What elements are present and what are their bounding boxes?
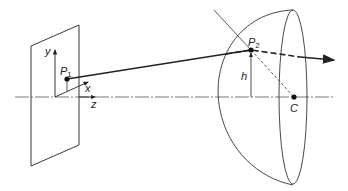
diagram-canvas: y x z P1 P2 h C (0, 0, 348, 191)
label-p2: P2 (248, 36, 260, 50)
point-p2 (248, 47, 253, 52)
outgoing-ray (300, 57, 334, 60)
point-c (291, 94, 296, 99)
label-h: h (241, 70, 247, 82)
refracted-ray-dashed (226, 50, 300, 57)
label-y: y (44, 45, 52, 57)
label-z: z (90, 98, 97, 110)
x-axis-arrow (55, 82, 88, 97)
hemisphere-outline (218, 10, 293, 185)
label-x: x (84, 82, 91, 94)
normal-line (214, 10, 251, 50)
label-c: C (290, 102, 298, 114)
label-p1: P1 (60, 65, 72, 79)
incident-ray (67, 50, 251, 79)
radius-dashed (251, 50, 294, 97)
